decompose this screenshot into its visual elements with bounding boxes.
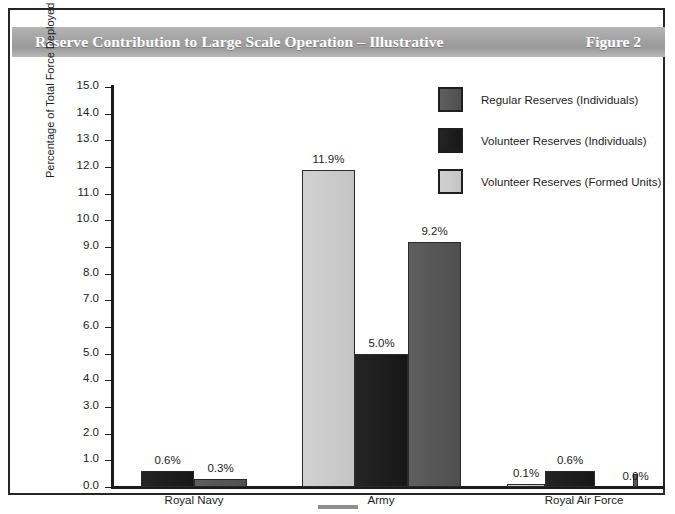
- y-axis-tick-label: 10.0: [77, 212, 99, 224]
- figure-frame: Reserve Contribution to Large Scale Oper…: [8, 8, 665, 495]
- legend-label: Volunteer Reserves (Individuals): [481, 135, 647, 147]
- bar-value-label: 0.6%: [557, 454, 583, 466]
- y-axis-title: Percentage of Total Force Deployed: [44, 0, 56, 178]
- legend-swatch-volunteer-ind: [438, 128, 463, 153]
- bar-volunteer-formed: [507, 484, 545, 487]
- bar-volunteer-ind: [545, 471, 595, 487]
- bar-regular: [194, 479, 247, 487]
- x-axis-label-royal-air-force: Royal Air Force: [545, 494, 624, 506]
- bar-value-label: 0.1%: [513, 467, 539, 479]
- y-axis-tick-label: 9.0: [83, 239, 99, 251]
- bar-volunteer-formed: [302, 170, 355, 487]
- y-axis-tick-label: 0.0: [83, 479, 99, 491]
- bar-value-label: 0.3%: [207, 462, 233, 474]
- bar-value-label: 9.2%: [421, 225, 447, 237]
- y-axis-tick-label: 14.0: [77, 106, 99, 118]
- y-axis-tick-label: 8.0: [83, 266, 99, 278]
- bar-value-label: 0.0%: [622, 470, 648, 482]
- legend-swatch-regular: [438, 87, 463, 112]
- y-axis-tick-label: 2.0: [83, 426, 99, 438]
- bar-volunteer-ind: [355, 354, 408, 487]
- bar-value-label: 0.6%: [154, 454, 180, 466]
- y-axis-tick-label: 15.0: [77, 79, 99, 91]
- legend-label: Volunteer Reserves (Formed Units): [481, 176, 661, 188]
- y-axis-tick-label: 5.0: [83, 346, 99, 358]
- legend-item-volunteer-ind: Volunteer Reserves (Individuals): [438, 128, 647, 153]
- legend-item-volunteer-formed: Volunteer Reserves (Formed Units): [438, 169, 661, 194]
- legend-swatch-volunteer-formed: [438, 169, 463, 194]
- y-axis-tick-label: 6.0: [83, 319, 99, 331]
- legend-item-regular: Regular Reserves (Individuals): [438, 87, 638, 112]
- figure-title-bar: Reserve Contribution to Large Scale Oper…: [12, 27, 665, 57]
- figure-number: Figure 2: [586, 33, 641, 51]
- page-artifact-mark: [318, 505, 358, 509]
- bar-regular: [408, 242, 461, 487]
- bar-value-label: 5.0%: [368, 337, 394, 349]
- y-axis-tick-label: 1.0: [83, 452, 99, 464]
- y-axis-tick-label: 3.0: [83, 399, 99, 411]
- y-axis-tick-label: 4.0: [83, 372, 99, 384]
- y-axis-tick-label: 13.0: [77, 132, 99, 144]
- x-axis-label-army: Army: [368, 494, 395, 506]
- legend-label: Regular Reserves (Individuals): [481, 94, 638, 106]
- y-axis-tick-label: 12.0: [77, 159, 99, 171]
- y-axis-tick-label: 7.0: [83, 292, 99, 304]
- y-axis-tick-label: 11.0: [77, 186, 99, 198]
- figure-title: Reserve Contribution to Large Scale Oper…: [35, 33, 444, 51]
- x-axis-label-royal-navy: Royal Navy: [165, 494, 224, 506]
- bar-volunteer-ind: [141, 471, 194, 487]
- bar-value-label: 11.9%: [313, 153, 345, 165]
